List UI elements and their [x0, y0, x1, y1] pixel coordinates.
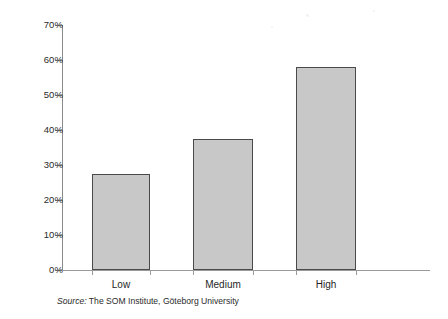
y-tick-group: 30% [0, 165, 63, 166]
chart-figure: 0% 10% 20% 30% 40% 50% 60% 70% [0, 0, 448, 319]
bar-low [92, 174, 150, 270]
y-axis-tick-label: 50% [15, 90, 63, 100]
y-axis-tick-label: 60% [15, 55, 63, 65]
y-axis-tick-label: 30% [15, 160, 63, 170]
y-tick-group: 40% [0, 130, 63, 131]
y-axis-tick-label: 0% [15, 265, 63, 275]
x-axis-tick [296, 270, 297, 275]
scan-speckle [373, 10, 375, 12]
bar-medium [193, 139, 253, 270]
x-axis-tick [193, 270, 194, 275]
y-tick-group: 0% [0, 270, 63, 271]
y-tick-group: 10% [0, 235, 63, 236]
scan-speckle [306, 14, 309, 17]
y-tick-group: 60% [0, 60, 63, 61]
plot-area: 0% 10% 20% 30% 40% 50% 60% 70% [0, 0, 448, 319]
x-axis-category-label-low: Low [92, 279, 150, 291]
x-axis-tick [92, 270, 93, 275]
x-axis-category-label-high: High [296, 279, 356, 291]
y-tick-group: 50% [0, 95, 63, 96]
x-axis-category-label-medium: Medium [193, 279, 253, 291]
y-axis-tick-label: 70% [15, 20, 63, 30]
x-axis-line [62, 270, 430, 271]
source-note-text: The SOM Institute, Göteborg University [89, 296, 239, 306]
bar-high [296, 67, 356, 270]
y-axis-tick-label: 10% [15, 230, 63, 240]
x-axis-tick [150, 270, 151, 275]
scan-speckle [271, 26, 273, 28]
y-axis-tick-label: 40% [15, 125, 63, 135]
x-axis-tick [253, 270, 254, 275]
y-tick-group: 70% [0, 25, 63, 26]
source-note: Source: The SOM Institute, Göteborg Univ… [57, 296, 239, 307]
y-tick-group: 20% [0, 200, 63, 201]
y-axis-tick-label: 20% [15, 195, 63, 205]
source-note-lead: Source: [57, 296, 87, 306]
x-axis-tick [356, 270, 357, 275]
